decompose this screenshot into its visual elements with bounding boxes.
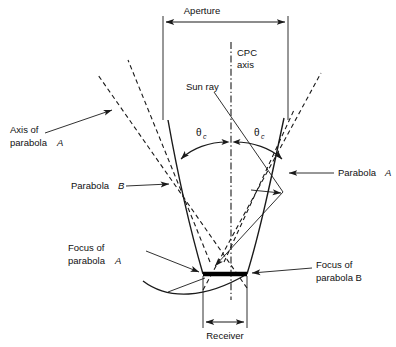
aperture-dimension [163, 16, 288, 120]
axis-of-parabola-a-line2: parabola [10, 137, 48, 148]
aperture-label: Aperture [184, 5, 220, 16]
parabola-a-curve [247, 118, 284, 274]
parabola-a-italic: A [384, 167, 391, 178]
focus-of-parabola-a-leader [146, 251, 199, 272]
axis-of-parabola-a-leader [45, 110, 112, 133]
sun-ray-reflected-segment [215, 192, 283, 266]
theta-c-left-label: θ c [196, 127, 207, 140]
theta-right-subscript: c [261, 133, 265, 140]
sun-ray-label: Sun ray [186, 81, 219, 92]
parabola-b-text: Parabola [71, 180, 110, 191]
focus-of-parabola-a-line1: Focus of [68, 242, 105, 253]
parabola-b-italic: B [118, 180, 125, 191]
focus-of-parabola-a-italic: A [114, 255, 121, 266]
cpc-axis-label-line2: axis [237, 59, 254, 70]
focus-of-parabola-b-leader [252, 268, 312, 273]
axis-of-parabola-a-line1: Axis of [10, 124, 39, 135]
cpc-diagram: Aperture CPC axis Sun ray θ c θ c Axis o… [0, 0, 396, 347]
receiver-dimension [203, 276, 247, 328]
axis-of-parabola-b-dashed-line [203, 73, 321, 290]
parabola-b-leader [126, 184, 169, 186]
focus-of-parabola-a-label: Focus of parabola A [68, 242, 121, 266]
parabola-a-label: Parabola A [338, 167, 391, 178]
parabola-a-text: Parabola [338, 167, 377, 178]
receiver-label: Receiver [206, 330, 244, 341]
axis-of-parabola-a-italic: A [56, 137, 63, 148]
cpc-diagram-svg: Aperture CPC axis Sun ray θ c θ c Axis o… [0, 0, 396, 347]
theta-left-subscript: c [203, 133, 207, 140]
focus-a-curve-leader [168, 278, 205, 292]
parabola-b-curve [168, 120, 203, 274]
theta-c-arc-left [181, 142, 227, 159]
theta-left-symbol: θ [196, 127, 202, 138]
sun-ray-path [214, 92, 283, 266]
focus-of-parabola-a-line2: parabola [68, 255, 106, 266]
theta-right-symbol: θ [254, 127, 260, 138]
theta-c-right-label: θ c [254, 127, 265, 140]
cpc-axis-label-line1: CPC [237, 47, 257, 58]
focus-of-parabola-b-line2: parabola B [316, 272, 362, 283]
parabola-b-label: Parabola B [71, 180, 125, 191]
axis-of-parabola-a-label: Axis of parabola A [10, 124, 63, 148]
focus-of-parabola-b-label: Focus of parabola B [316, 259, 362, 283]
focus-of-parabola-b-line1: Focus of [316, 259, 353, 270]
